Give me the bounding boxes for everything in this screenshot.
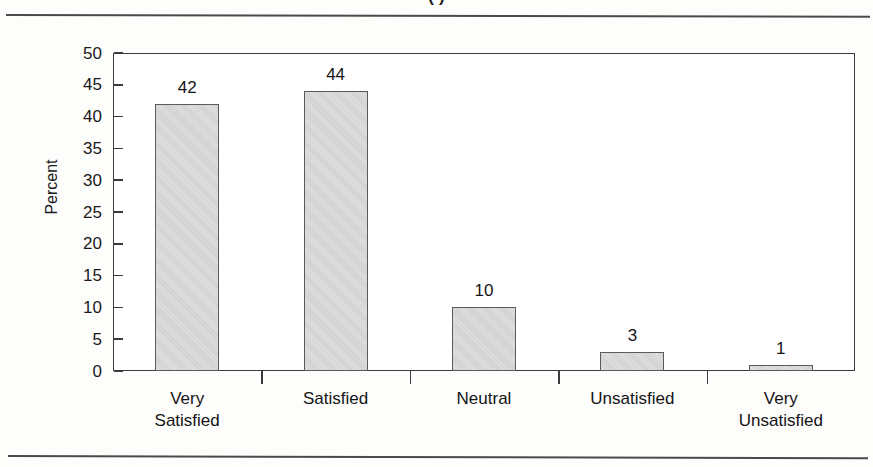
y-axis-tick-label: 50: [56, 45, 102, 62]
bar-value-label: 10: [444, 282, 524, 299]
y-axis-tick-mark: [114, 116, 123, 118]
category-separator-tick: [558, 371, 559, 384]
y-axis-tick-label: 25: [56, 204, 102, 221]
y-axis-tick-mark: [114, 179, 123, 181]
bar-value-label: 44: [296, 66, 376, 83]
y-axis-tick-label: 35: [56, 140, 102, 157]
y-axis-tick-mark: [114, 275, 123, 277]
y-axis-tick-label: 5: [56, 331, 102, 348]
category-label: Very Satisfied: [107, 388, 267, 432]
bar-value-label: 42: [147, 79, 227, 96]
y-axis-tick-mark: [114, 243, 123, 245]
y-axis-tick-label: 20: [56, 235, 102, 252]
category-separator-tick: [707, 371, 708, 384]
y-axis-tick-label: 15: [56, 267, 102, 284]
bar: [600, 352, 664, 371]
bar: [452, 307, 516, 371]
category-label: Very Unsatisfied: [701, 388, 861, 432]
bar: [155, 104, 219, 371]
category-separator-tick: [261, 371, 262, 384]
y-axis-tick-label: 10: [56, 299, 102, 316]
category-label: Neutral: [404, 388, 564, 410]
y-axis-tick-label: 30: [56, 172, 102, 189]
bar-chart: Percent 50454035302520151050 42441031 Ve…: [0, 0, 873, 467]
y-axis-tick-label: 45: [56, 76, 102, 93]
y-axis-tick-mark: [114, 338, 123, 340]
category-label: Unsatisfied: [552, 388, 712, 410]
bar: [749, 365, 813, 371]
y-axis-tick-mark: [114, 84, 123, 86]
y-axis-tick-mark: [114, 148, 123, 150]
bar-value-label: 1: [741, 340, 821, 357]
chart-page: ( ) Percent 50454035302520151050 4244103…: [0, 0, 873, 467]
category-separator-tick: [410, 371, 411, 384]
y-axis-tick-label: 40: [56, 108, 102, 125]
y-axis-tick-mark: [114, 52, 123, 54]
y-axis-tick-mark: [114, 370, 123, 372]
y-axis-tick-label: 0: [56, 363, 102, 380]
y-axis-tick-mark: [114, 307, 123, 309]
y-axis-tick-mark: [114, 211, 123, 213]
bar-value-label: 3: [592, 327, 672, 344]
category-label: Satisfied: [256, 388, 416, 410]
bar: [304, 91, 368, 371]
